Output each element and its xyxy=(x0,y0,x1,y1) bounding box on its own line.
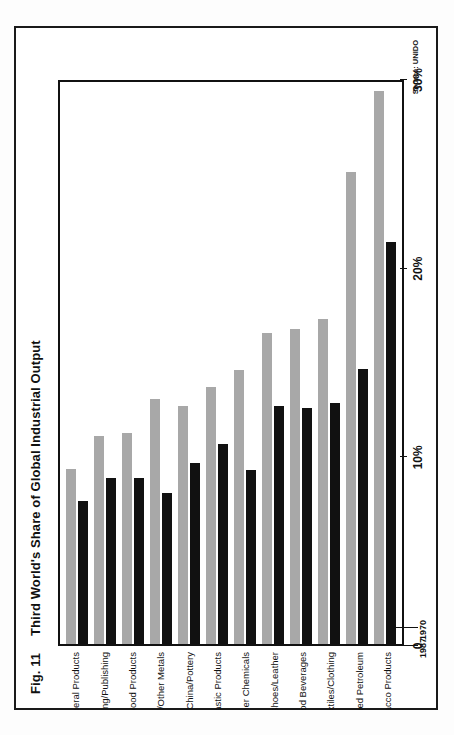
bar-1987 xyxy=(122,433,132,644)
category-label: Paper/Printing/Publishing xyxy=(98,646,109,710)
bar-1970 xyxy=(358,369,368,644)
bar-1987 xyxy=(290,329,300,644)
legend-leader-line xyxy=(396,645,418,646)
legend-leader-line xyxy=(396,627,418,628)
bar-group xyxy=(175,82,203,644)
category-label: Refined Petroleum xyxy=(353,646,364,710)
bar-1970 xyxy=(162,493,172,644)
bar-1970 xyxy=(274,406,284,644)
axis-tick xyxy=(400,456,407,457)
bar-1970 xyxy=(218,444,228,644)
category-label: Shoes/Leather xyxy=(268,646,279,710)
bar-1970 xyxy=(134,478,144,644)
value-axis: 010%20%30% xyxy=(404,80,405,646)
bar-1970 xyxy=(246,470,256,644)
bar-1970 xyxy=(330,403,340,644)
bar-1987 xyxy=(178,406,188,644)
bar-1987 xyxy=(374,91,384,644)
figure-number: Fig. 11 xyxy=(28,653,43,694)
axis-tick-label: 30% xyxy=(411,68,425,92)
category-label: Food Beverages xyxy=(296,646,307,710)
bar-1970 xyxy=(190,463,200,644)
bar-group xyxy=(203,82,231,644)
bar-group xyxy=(231,82,259,644)
axis-tick xyxy=(400,268,407,269)
bar-group-container xyxy=(60,82,402,644)
bar-group xyxy=(371,82,399,644)
bar-group xyxy=(147,82,175,644)
bar-1987 xyxy=(150,399,160,644)
category-label: Textiles/Clothing xyxy=(325,646,336,710)
bar-1987 xyxy=(318,320,328,645)
figure-page: Fig. 11 Third World's Share of Global In… xyxy=(0,0,454,735)
bar-1970 xyxy=(78,501,88,644)
category-label: Rubber/ Plastic Products xyxy=(211,646,222,710)
category-label: Tobacco Products xyxy=(381,646,392,710)
bar-group xyxy=(315,82,343,644)
bar-1970 xyxy=(302,408,312,644)
chart-legend: 19871970 xyxy=(412,572,434,692)
bar-1987 xyxy=(206,387,216,644)
rotated-figure-stage: Fig. 11 Third World's Share of Global In… xyxy=(14,26,438,710)
category-label: Iron/Steel/Other Metals xyxy=(155,646,166,710)
axis-tick-label: 20% xyxy=(411,257,425,281)
legend-label-1987: 1987 xyxy=(418,638,428,658)
bar-group xyxy=(287,82,315,644)
bar-group xyxy=(63,82,91,644)
category-label: Glass/China/Pottery xyxy=(183,646,194,710)
legend-label-1970: 1970 xyxy=(418,620,428,640)
figure-canvas: Fig. 11 Third World's Share of Global In… xyxy=(14,26,438,710)
bar-group xyxy=(119,82,147,644)
bar-1987 xyxy=(94,436,104,644)
category-label: Industrial/Other Chemicals xyxy=(240,646,251,710)
bar-group xyxy=(259,82,287,644)
bar-1987 xyxy=(234,370,244,644)
category-label: Non-Metal Mineral Products xyxy=(70,646,81,710)
bar-1970 xyxy=(386,242,396,644)
bar-group xyxy=(343,82,371,644)
bar-1970 xyxy=(106,478,116,644)
bar-group xyxy=(91,82,119,644)
axis-tick xyxy=(400,79,407,80)
bar-1987 xyxy=(346,172,356,644)
category-label: Wood/Furniture/Wood Products xyxy=(126,646,137,710)
plot-area xyxy=(58,80,404,646)
figure-title: Third World's Share of Global Industrial… xyxy=(28,340,43,636)
bar-1987 xyxy=(66,469,76,644)
bar-1987 xyxy=(262,333,272,644)
axis-tick-label: 10% xyxy=(411,445,425,469)
